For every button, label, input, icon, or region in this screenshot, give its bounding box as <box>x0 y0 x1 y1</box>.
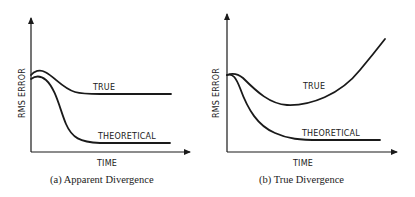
theoretical-label: THEORETICAL <box>301 129 360 138</box>
y-axis-label: RMS ERROR <box>18 68 27 118</box>
caption-b: (b) True Divergence <box>259 174 344 186</box>
x-axis-label: TIME <box>96 159 117 168</box>
true-curve <box>227 39 385 105</box>
true-label: TRUE <box>302 82 325 91</box>
caption-a: (a) Apparent Divergence <box>50 174 154 186</box>
panel-b: TRUE THEORETICAL TIME RMS ERROR (b) True… <box>212 14 397 186</box>
y-axis-label: RMS ERROR <box>212 68 221 118</box>
panel-a: TRUE THEORETICAL TIME RMS ERROR (a) Appa… <box>18 18 190 186</box>
x-axis-label: TIME <box>292 159 313 168</box>
true-label: TRUE <box>92 83 115 92</box>
divergence-figure: TRUE THEORETICAL TIME RMS ERROR (a) Appa… <box>0 0 415 197</box>
theoretical-label: THEORETICAL <box>97 132 156 141</box>
